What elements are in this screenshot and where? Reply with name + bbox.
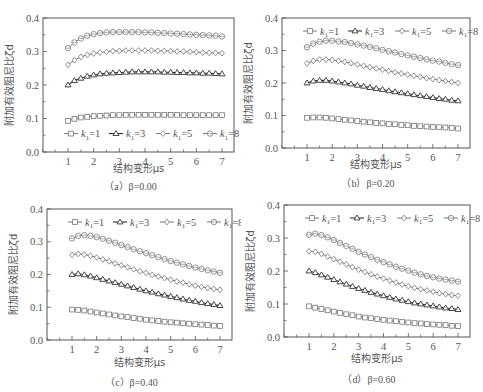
square-marker-icon bbox=[311, 115, 316, 120]
diamond-marker-icon bbox=[374, 65, 379, 71]
panel-caption: （a）β=0.00 bbox=[104, 181, 157, 192]
diamond-marker-icon bbox=[380, 67, 385, 73]
diamond-marker-icon bbox=[449, 292, 454, 298]
diamond-marker-icon bbox=[456, 80, 461, 86]
diamond-marker-icon bbox=[149, 48, 154, 54]
triangle-marker-icon bbox=[306, 268, 312, 273]
y-tick-label: 0.0 bbox=[30, 335, 43, 346]
diamond-marker-icon bbox=[88, 253, 93, 259]
diamond-marker-icon bbox=[111, 48, 116, 54]
chart-b: 0.00.10.20.30.41234567结构变形μs附加有效阻尼比ζd（b）… bbox=[241, 0, 483, 196]
x-tick-label: 7 bbox=[455, 341, 460, 352]
y-axis-title: 附加有效阻尼比ζd bbox=[242, 42, 254, 124]
series-triangle bbox=[65, 69, 225, 87]
square-marker-icon bbox=[174, 320, 179, 325]
square-marker-icon bbox=[338, 311, 343, 316]
diamond-marker-icon bbox=[194, 49, 199, 55]
panel-caption: （c）β=0.40 bbox=[105, 377, 158, 388]
diamond-marker-icon bbox=[317, 57, 322, 63]
x-tick-label: 2 bbox=[91, 156, 96, 167]
square-marker-icon bbox=[73, 220, 78, 225]
diamond-marker-icon bbox=[187, 281, 192, 287]
square-marker-icon bbox=[368, 120, 373, 125]
y-tick-label: 0.3 bbox=[26, 46, 39, 57]
diamond-marker-icon bbox=[431, 289, 436, 295]
square-marker-icon bbox=[418, 124, 423, 129]
diamond-marker-icon bbox=[72, 57, 77, 63]
square-marker-icon bbox=[98, 113, 103, 118]
diamond-marker-icon bbox=[344, 262, 349, 268]
square-marker-icon bbox=[387, 318, 392, 323]
legend-item: k1=1 bbox=[68, 217, 104, 231]
square-marker-icon bbox=[443, 125, 448, 130]
legend-label: k1=1 bbox=[322, 213, 341, 227]
square-marker-icon bbox=[82, 308, 87, 313]
diamond-marker-icon bbox=[155, 48, 160, 54]
diamond-marker-icon bbox=[218, 287, 223, 293]
x-tick-label: 1 bbox=[69, 344, 74, 355]
square-marker-icon bbox=[356, 314, 361, 319]
square-marker-icon bbox=[342, 117, 347, 122]
diamond-marker-icon bbox=[161, 131, 166, 137]
legend-item: k1=1 bbox=[305, 213, 341, 227]
diamond-marker-icon bbox=[425, 288, 430, 294]
square-marker-icon bbox=[70, 307, 75, 312]
diamond-marker-icon bbox=[113, 260, 118, 266]
diamond-marker-icon bbox=[424, 75, 429, 81]
square-marker-icon bbox=[369, 316, 374, 321]
diamond-marker-icon bbox=[205, 285, 210, 291]
panel-b: 0.00.10.20.30.41234567结构变形μs附加有效阻尼比ζd（b）… bbox=[241, 0, 483, 196]
square-marker-icon bbox=[205, 323, 210, 328]
square-marker-icon bbox=[362, 315, 367, 320]
square-marker-icon bbox=[162, 112, 167, 117]
diamond-marker-icon bbox=[165, 219, 170, 225]
square-marker-icon bbox=[325, 308, 330, 313]
triangle-marker-icon bbox=[75, 271, 81, 276]
square-marker-icon bbox=[355, 119, 360, 124]
square-marker-icon bbox=[349, 118, 354, 123]
square-marker-icon bbox=[331, 309, 336, 314]
square-marker-icon bbox=[130, 112, 135, 117]
square-marker-icon bbox=[149, 112, 154, 117]
legend: k1=1k1=3k1=5k1=8 bbox=[64, 128, 239, 142]
x-tick-label: 7 bbox=[455, 152, 460, 163]
square-marker-icon bbox=[66, 118, 71, 123]
legend: k1=1k1=3k1=5k1=8 bbox=[68, 217, 241, 231]
legend-item: k1=5 bbox=[395, 26, 431, 40]
diamond-marker-icon bbox=[400, 282, 405, 288]
diamond-marker-icon bbox=[211, 286, 216, 292]
legend-label: k1=8 bbox=[461, 213, 480, 227]
square-marker-icon bbox=[213, 113, 218, 118]
x-tick-label: 7 bbox=[219, 156, 224, 167]
square-marker-icon bbox=[437, 322, 442, 327]
y-tick-label: 0.1 bbox=[265, 110, 278, 121]
square-marker-icon bbox=[305, 115, 310, 120]
y-tick-label: 0.4 bbox=[265, 13, 279, 24]
square-marker-icon bbox=[100, 311, 105, 316]
triangle-marker-icon bbox=[168, 69, 174, 74]
square-marker-icon bbox=[456, 126, 461, 131]
square-marker-icon bbox=[220, 113, 225, 118]
square-marker-icon bbox=[406, 320, 411, 325]
y-tick-label: 0.1 bbox=[267, 299, 280, 310]
diamond-marker-icon bbox=[331, 256, 336, 262]
square-marker-icon bbox=[375, 317, 380, 322]
diamond-marker-icon bbox=[323, 57, 328, 63]
square-marker-icon bbox=[425, 322, 430, 327]
square-marker-icon bbox=[319, 307, 324, 312]
x-tick-label: 1 bbox=[65, 156, 70, 167]
diamond-marker-icon bbox=[213, 50, 218, 56]
panel-caption: （d）β=0.60 bbox=[342, 374, 395, 385]
diamond-marker-icon bbox=[449, 79, 454, 85]
diamond-marker-icon bbox=[150, 272, 155, 278]
x-tick-label: 3 bbox=[119, 344, 124, 355]
diamond-marker-icon bbox=[131, 266, 136, 272]
legend-label: k1=1 bbox=[81, 128, 100, 142]
square-marker-icon bbox=[412, 321, 417, 326]
diamond-marker-icon bbox=[311, 58, 316, 64]
chart-d: 0.00.10.20.30.41234567结构变形μs附加有效阻尼比ζd（d）… bbox=[241, 196, 483, 392]
diamond-marker-icon bbox=[199, 284, 204, 290]
square-marker-icon bbox=[418, 321, 423, 326]
y-tick-label: 0.3 bbox=[30, 236, 43, 247]
square-marker-icon bbox=[175, 112, 180, 117]
